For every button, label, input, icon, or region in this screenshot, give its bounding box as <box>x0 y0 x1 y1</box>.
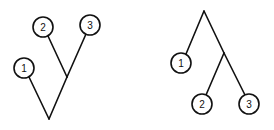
edge-junction-to-3 <box>67 34 86 77</box>
tree-diagram: 1 2 3 1 2 3 <box>0 0 274 130</box>
node-3: 3 <box>80 15 100 35</box>
edge-root-to-1 <box>29 77 49 119</box>
node-2: 2 <box>192 94 212 114</box>
node-label: 3 <box>246 99 252 110</box>
node-label: 1 <box>178 58 184 69</box>
left-tree: 1 2 3 <box>14 15 100 119</box>
edge-junction-to-2 <box>206 53 224 95</box>
node-1: 1 <box>14 58 34 78</box>
edge-root-to-junction <box>204 11 224 53</box>
node-label: 2 <box>40 22 46 33</box>
edge-junction-to-3 <box>224 53 245 95</box>
node-2: 2 <box>33 17 53 37</box>
node-label: 3 <box>87 20 93 31</box>
edge-junction-to-2 <box>48 36 67 77</box>
node-3: 3 <box>239 94 259 114</box>
node-label: 2 <box>199 99 205 110</box>
node-label: 1 <box>21 63 27 74</box>
edge-root-to-1 <box>186 11 204 54</box>
node-1: 1 <box>171 53 191 73</box>
right-tree: 1 2 3 <box>171 11 259 114</box>
edge-root-to-junction <box>49 77 67 119</box>
